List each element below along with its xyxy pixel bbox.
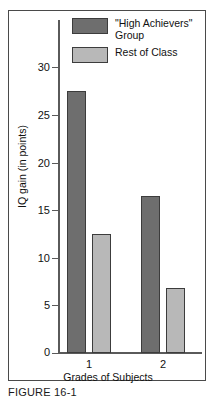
legend-swatch-high-achievers <box>72 18 108 34</box>
x-axis-title: Grades of Subjects <box>9 372 207 383</box>
bar-grade2-rest-of-class <box>166 288 185 353</box>
figure-root: 30 25 20 15 10 5 0 IQ gain (in points) <box>0 0 215 399</box>
legend-swatch-rest-of-class <box>72 47 108 63</box>
bar-grade1-high-achievers <box>67 91 86 353</box>
legend-item-rest-of-class: Rest of Class <box>72 46 204 63</box>
chart-legend: "High Achievers" Group Rest of Class <box>72 17 204 68</box>
legend-label-rest-of-class: Rest of Class <box>115 46 177 58</box>
x-tick-label-1: 1 <box>69 358 109 370</box>
legend-item-high-achievers: "High Achievers" Group <box>72 17 204 41</box>
chart-frame: 30 25 20 15 10 5 0 IQ gain (in points) <box>8 10 206 381</box>
legend-label-high-achievers: "High Achievers" Group <box>115 17 193 41</box>
figure-caption: FIGURE 16-1 <box>8 386 77 398</box>
plot-area: 30 25 20 15 10 5 0 IQ gain (in points) <box>9 11 207 382</box>
x-tick-label-2: 2 <box>143 358 183 370</box>
bar-grade1-rest-of-class <box>92 234 111 353</box>
bar-grade2-high-achievers <box>141 196 160 353</box>
